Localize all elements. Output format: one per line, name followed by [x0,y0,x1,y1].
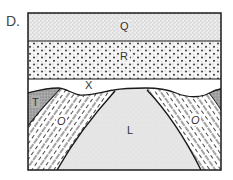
label-o-left: O [57,115,66,127]
label-x: X [85,79,93,91]
figure-label: D. [6,13,20,29]
label-q: Q [120,20,129,32]
geologic-cross-section: D. Q R X T O O L [0,0,233,180]
label-l: L [127,124,133,136]
label-o-right: O [191,114,200,126]
label-t: T [32,96,39,108]
label-r: R [120,50,128,62]
